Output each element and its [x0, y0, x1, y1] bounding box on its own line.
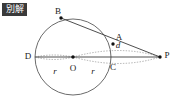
point-dot-p — [158, 55, 161, 58]
point-label-c: C — [110, 63, 116, 72]
measure-label-distance-d: d — [116, 41, 121, 50]
arc-lower-o-to-p — [73, 57, 160, 64]
point-dot-o — [71, 55, 74, 58]
point-label-d: D — [25, 52, 32, 61]
point-label-b: B — [55, 7, 61, 16]
point-dot-b — [59, 16, 62, 19]
measure-label-radius-left: r — [53, 67, 57, 76]
point-dot-a — [111, 42, 114, 45]
measure-label-radius-right: r — [91, 67, 95, 76]
point-label-o: O — [70, 64, 77, 73]
point-label-p: P — [164, 51, 169, 60]
figure-canvas: 別解 B A P D O C r r d — [0, 0, 175, 100]
